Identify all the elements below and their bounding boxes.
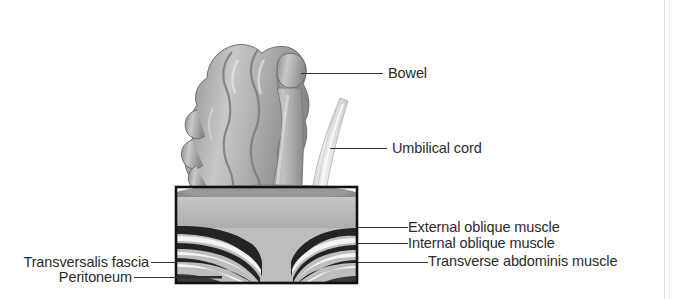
label-bowel: Bowel xyxy=(388,65,427,81)
leader-line-internal-oblique xyxy=(358,243,408,244)
label-umbilical-cord: Umbilical cord xyxy=(392,140,482,156)
figure-canvas: Bowel Umbilical cord External oblique mu… xyxy=(0,0,677,299)
label-internal-oblique-muscle: Internal oblique muscle xyxy=(408,235,555,251)
label-transversalis-fascia: Transversalis fascia xyxy=(0,254,149,270)
label-external-oblique-muscle: External oblique muscle xyxy=(408,219,560,235)
label-peritoneum: Peritoneum xyxy=(0,269,132,285)
label-transverse-abdominis-muscle: Transverse abdominis muscle xyxy=(428,253,617,269)
leader-line-bowel xyxy=(301,73,383,74)
leader-line-external-oblique xyxy=(358,227,408,228)
abdominal-wall-block xyxy=(175,184,357,283)
leader-line-umbilical-cord xyxy=(330,148,387,149)
leader-line-peritoneum xyxy=(134,277,177,278)
leader-line-transverse-abdominis xyxy=(358,262,428,263)
leader-line-transversalis-fascia xyxy=(151,262,177,263)
